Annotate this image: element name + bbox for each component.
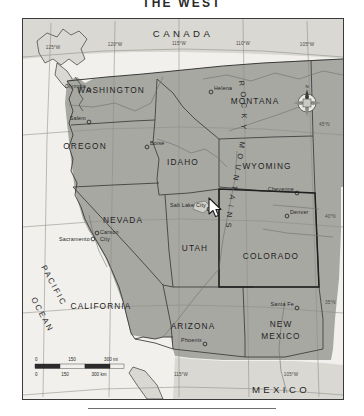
scale-segment-1	[35, 364, 60, 369]
state-label-wyoming: WYOMING	[242, 161, 291, 171]
city-dot-helena	[209, 90, 213, 94]
scale-segment-2	[60, 364, 85, 369]
state-label-new-mexico-line1: NEW	[270, 319, 293, 329]
compass-center	[303, 99, 311, 107]
city-dot-cheyenne	[295, 191, 299, 195]
map-labels-layer: CANADA MEXICO WASHINGTON OREGON MONTANA …	[23, 19, 343, 399]
city-dot-phoenix	[203, 342, 207, 346]
longitude-label-110w-top: 110°W	[236, 41, 251, 46]
scale-segment-4	[110, 364, 124, 369]
state-label-nevada: NEVADA	[103, 215, 143, 225]
city-label-olympia: Olympia	[65, 83, 86, 89]
ocean-label-pacific: PACIFIC	[39, 264, 68, 308]
city-label-santa-fe: Santa Fe	[271, 301, 294, 307]
longitude-label-115w-bottom: 115°W	[174, 372, 189, 377]
compass-rose: N	[293, 84, 321, 117]
city-label-carson-city-line1: Carson	[100, 229, 119, 235]
longitude-label-125w-top: 125°W	[46, 45, 61, 50]
city-label-boise: Boise	[150, 140, 165, 146]
latitude-label-45n: 45°N	[319, 122, 330, 127]
state-label-california: CALIFORNIA	[71, 301, 132, 311]
scale-label-mi-max: 300 mi	[104, 357, 118, 362]
bottom-divider	[88, 408, 276, 409]
ocean-label-ocean: OCEAN	[29, 296, 55, 334]
city-dot-santa-fe	[295, 306, 299, 310]
latitude-label-35n: 35°N	[325, 300, 336, 305]
city-label-cheyenne: Cheyenne	[268, 186, 294, 192]
state-label-new-mexico-line2: MEXICO	[261, 331, 300, 341]
country-label-mexico: MEXICO	[252, 384, 310, 395]
page-title: THE WEST	[0, 0, 364, 10]
scale-tick-mi-150: 150	[68, 357, 76, 362]
state-label-oregon: OREGON	[63, 141, 106, 151]
scale-tick-km-0: 0	[35, 372, 38, 377]
city-label-salt-lake-city: Salt Lake City	[170, 202, 206, 208]
city-label-helena: Helena	[214, 85, 232, 91]
cursor-arrow-icon	[209, 198, 221, 217]
city-dot-carson-city	[95, 231, 99, 235]
city-label-salem: Salem	[70, 115, 87, 121]
state-label-montana: MONTANA	[231, 96, 280, 106]
state-label-colorado: COLORADO	[243, 251, 299, 261]
longitude-label-105w-bottom: 105°W	[284, 372, 299, 377]
city-dot-salem	[87, 120, 91, 124]
compass-label-north: N	[305, 84, 308, 89]
state-label-arizona: ARIZONA	[171, 321, 216, 331]
map-figure: CANADA MEXICO WASHINGTON OREGON MONTANA …	[22, 18, 344, 400]
longitude-label-115w-top: 115°W	[172, 41, 187, 46]
scale-segment-3	[85, 364, 110, 369]
mouse-cursor	[208, 197, 224, 219]
scale-tick-mi-0: 0	[35, 357, 38, 362]
city-label-sacramento: Sacramento	[59, 236, 90, 242]
state-label-idaho: IDAHO	[167, 157, 199, 167]
state-label-utah: UTAH	[182, 243, 208, 253]
scale-bar: 0 150 300 mi 0 150 300 km	[35, 357, 124, 377]
scale-label-km-max: 300 km	[91, 372, 106, 377]
city-dot-sacramento	[91, 237, 95, 241]
latitude-label-40n: 40°N	[325, 214, 336, 219]
longitude-label-120w-top: 120°W	[108, 42, 123, 47]
city-label-carson-city-line2: City	[100, 236, 110, 242]
city-label-phoenix: Phoenix	[181, 337, 202, 343]
scale-tick-km-150: 150	[61, 372, 69, 377]
city-dot-denver	[285, 214, 289, 218]
longitude-label-105w-top: 105°W	[300, 42, 315, 47]
country-label-canada: CANADA	[153, 28, 213, 39]
city-dot-boise	[145, 145, 149, 149]
city-label-denver: Denver	[290, 209, 309, 215]
